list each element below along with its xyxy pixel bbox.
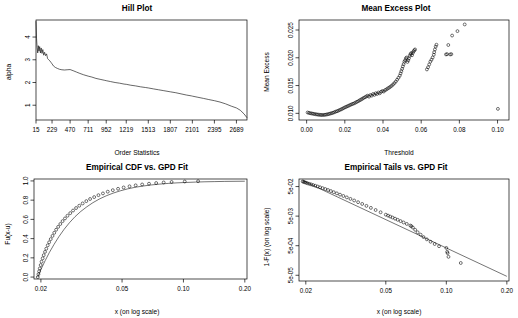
x-axis-label: Threshold xyxy=(384,149,414,156)
plot-grid: Hill Plot 152294707119521219151318072101… xyxy=(0,0,518,318)
svg-text:0.015: 0.015 xyxy=(287,77,294,93)
plot-frame xyxy=(34,179,247,279)
hill-plot-svg: Hill Plot 152294707119521219151318072101… xyxy=(0,0,259,159)
y-axis-label: Mean Excess xyxy=(263,52,270,92)
empirical-cdf-plot-svg: Empirical CDF vs. GPD Fit 0.020.050.100.… xyxy=(0,159,259,318)
svg-text:711: 711 xyxy=(83,126,94,133)
y-axis-label: Fu(x-u) xyxy=(4,223,12,244)
svg-text:470: 470 xyxy=(65,126,76,133)
svg-text:5e-05: 5e-05 xyxy=(287,267,294,284)
svg-text:5e-02: 5e-02 xyxy=(287,178,294,195)
svg-text:0.20: 0.20 xyxy=(239,285,252,292)
panel-title: Empirical Tails vs. GPD Fit xyxy=(344,163,447,172)
svg-text:0.0: 0.0 xyxy=(22,272,29,281)
svg-text:2395: 2395 xyxy=(207,126,222,133)
svg-text:2101: 2101 xyxy=(185,126,200,133)
data-layer xyxy=(301,180,507,276)
svg-text:0.025: 0.025 xyxy=(287,22,294,38)
svg-text:0.10: 0.10 xyxy=(177,285,190,292)
svg-text:2689: 2689 xyxy=(229,126,244,133)
svg-text:0.02: 0.02 xyxy=(300,287,313,294)
x-axis-label: x (on log scale) xyxy=(115,308,160,316)
panel-title: Hill Plot xyxy=(122,4,153,13)
svg-text:0.6: 0.6 xyxy=(22,215,29,224)
svg-text:2: 2 xyxy=(24,80,31,84)
data-layer xyxy=(36,180,245,279)
axis-layer: 0.020.050.100.205e-055e-045e-035e-02 xyxy=(287,178,513,294)
svg-text:0.05: 0.05 xyxy=(380,287,393,294)
svg-text:0.4: 0.4 xyxy=(22,234,29,243)
svg-text:0.04: 0.04 xyxy=(377,126,390,133)
svg-text:0.00: 0.00 xyxy=(301,126,314,133)
svg-text:3: 3 xyxy=(24,58,31,62)
svg-text:1: 1 xyxy=(24,103,31,107)
svg-text:0.10: 0.10 xyxy=(440,287,453,294)
svg-text:229: 229 xyxy=(47,126,58,133)
svg-text:0.02: 0.02 xyxy=(339,126,352,133)
svg-text:1.0: 1.0 xyxy=(22,176,29,185)
panel-title: Empirical CDF vs. GPD Fit xyxy=(86,163,188,172)
svg-text:1807: 1807 xyxy=(163,126,178,133)
panel-empirical-tails-plot: Empirical Tails vs. GPD Fit 0.020.050.10… xyxy=(259,159,518,318)
data-layer xyxy=(306,23,499,116)
svg-text:0.020: 0.020 xyxy=(287,49,294,65)
svg-text:952: 952 xyxy=(101,126,112,133)
svg-text:1513: 1513 xyxy=(141,126,156,133)
svg-text:0.05: 0.05 xyxy=(116,285,129,292)
svg-text:4: 4 xyxy=(24,35,31,39)
svg-text:0.06: 0.06 xyxy=(415,126,428,133)
x-axis-label: Order Statistics xyxy=(114,149,160,156)
y-axis-label: 1-F(x) (on log scale) xyxy=(263,208,271,267)
y-axis-label: alpha xyxy=(5,64,13,80)
svg-text:0.10: 0.10 xyxy=(491,126,504,133)
x-axis-label: x (on log scale) xyxy=(377,308,422,316)
svg-text:1219: 1219 xyxy=(119,126,134,133)
svg-text:15: 15 xyxy=(32,126,40,133)
svg-text:0.8: 0.8 xyxy=(22,195,29,204)
svg-text:0.20: 0.20 xyxy=(501,287,514,294)
panel-mean-excess-plot: Mean Excess Plot 0.000.020.040.060.080.1… xyxy=(259,0,518,159)
panel-title: Mean Excess Plot xyxy=(361,4,430,13)
axis-layer: 1522947071195212191513180721012395268912… xyxy=(24,35,244,133)
svg-text:5e-03: 5e-03 xyxy=(287,208,294,225)
plot-frame xyxy=(299,179,509,281)
mean-excess-plot-svg: Mean Excess Plot 0.000.020.040.060.080.1… xyxy=(259,0,518,159)
plot-frame xyxy=(299,20,509,120)
data-layer xyxy=(36,21,247,118)
axis-layer: 0.020.050.100.200.00.20.40.60.81.0 xyxy=(22,176,251,292)
svg-text:0.010: 0.010 xyxy=(287,105,294,121)
panel-empirical-cdf-plot: Empirical CDF vs. GPD Fit 0.020.050.100.… xyxy=(0,159,259,318)
svg-text:0.08: 0.08 xyxy=(453,126,466,133)
empirical-tails-plot-svg: Empirical Tails vs. GPD Fit 0.020.050.10… xyxy=(259,159,518,318)
svg-text:0.02: 0.02 xyxy=(35,285,48,292)
panel-hill-plot: Hill Plot 152294707119521219151318072101… xyxy=(0,0,259,159)
svg-text:0.2: 0.2 xyxy=(22,253,29,262)
svg-text:5e-04: 5e-04 xyxy=(287,237,294,254)
